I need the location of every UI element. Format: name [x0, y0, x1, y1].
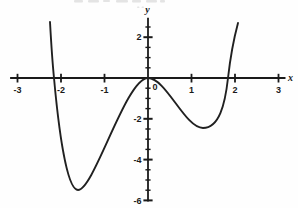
cropped-caption-artifact	[103, 0, 110, 2]
x-axis-label: x	[287, 72, 293, 83]
y-tick-label: -2	[133, 114, 141, 124]
y-tick-label: -6	[133, 196, 141, 206]
cropped-caption-artifact	[132, 0, 141, 3]
y-axis-label: y	[144, 4, 150, 15]
x-tick-label: -1	[100, 85, 108, 95]
x-tick-label: 1	[189, 85, 194, 95]
cropped-caption-artifact	[116, 0, 128, 3]
x-tick-label: -2	[57, 85, 65, 95]
function-graph-figure: -3-2-11232-2-4-60yx	[0, 0, 298, 208]
cropped-caption-artifact	[146, 0, 157, 3]
x-tick-label: 3	[276, 85, 281, 95]
y-tick-label: -4	[133, 155, 141, 165]
cropped-caption-artifact	[88, 0, 99, 3]
function-plot-canvas: -3-2-11232-2-4-60yx	[0, 0, 298, 208]
origin-label: 0	[153, 82, 158, 92]
cropped-caption-artifact	[74, 0, 83, 3]
cropped-caption-artifact	[160, 0, 165, 3]
function-curve	[50, 22, 238, 190]
cropped-caption-artifact	[137, 7, 140, 9]
cropped-caption-artifact	[142, 7, 145, 9]
y-tick-label: 2	[136, 32, 141, 42]
x-tick-label: -3	[13, 85, 21, 95]
x-tick-label: 2	[232, 85, 237, 95]
